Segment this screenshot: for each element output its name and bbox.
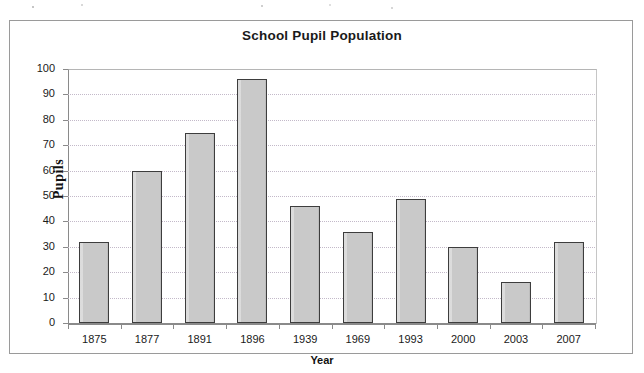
- x-tick-label-1875: 1875: [64, 333, 124, 345]
- bar-2003[interactable]: [501, 282, 531, 323]
- bar-1969[interactable]: [343, 232, 373, 323]
- bar-1877[interactable]: [132, 171, 162, 323]
- y-tick-label: 100: [15, 62, 55, 74]
- x-tick-mark: [332, 323, 333, 329]
- y-tick-label: 60: [15, 164, 55, 176]
- bar-slot: [490, 69, 543, 323]
- x-tick-mark: [68, 323, 69, 329]
- x-tick-mark: [384, 323, 385, 329]
- x-tick-mark: [173, 323, 174, 329]
- bar-1875[interactable]: [79, 242, 109, 323]
- bar-1896[interactable]: [237, 79, 267, 323]
- x-tick-mark: [542, 323, 543, 329]
- x-tick-mark: [437, 323, 438, 329]
- bar-slot: [173, 69, 226, 323]
- bar-slot: [279, 69, 332, 323]
- bar-2007[interactable]: [554, 242, 584, 323]
- x-tick-mark: [279, 323, 280, 329]
- x-tick-label-2000: 2000: [433, 333, 493, 345]
- bar-slot: [384, 69, 437, 323]
- y-tick-label: 10: [15, 291, 55, 303]
- y-tick-label: 80: [15, 113, 55, 125]
- x-tick-mark: [121, 323, 122, 329]
- y-tick-label: 0: [15, 316, 55, 328]
- y-tick-label: 70: [15, 138, 55, 150]
- x-tick-label-1969: 1969: [328, 333, 388, 345]
- y-tick-label: 90: [15, 87, 55, 99]
- x-tick-label-2007: 2007: [539, 333, 599, 345]
- x-tick-label-2003: 2003: [486, 333, 546, 345]
- bar-2000[interactable]: [448, 247, 478, 323]
- x-tick-label-1993: 1993: [381, 333, 441, 345]
- bar-1993[interactable]: [396, 199, 426, 323]
- bar-slot: [542, 69, 595, 323]
- x-tick-label-1891: 1891: [170, 333, 230, 345]
- bar-1891[interactable]: [185, 133, 215, 324]
- x-tick-mark: [226, 323, 227, 329]
- chart-figure-frame: School Pupil Population Pupils 100908070…: [9, 20, 633, 354]
- bar-slot: [332, 69, 385, 323]
- x-axis-title: Year: [10, 354, 634, 366]
- bars-group: [68, 69, 595, 323]
- scan-artifact-speckle: [0, 0, 644, 18]
- y-tick-label: 20: [15, 265, 55, 277]
- bar-slot: [121, 69, 174, 323]
- x-tick-mark: [490, 323, 491, 329]
- x-tick-label-1896: 1896: [222, 333, 282, 345]
- y-tick-label: 40: [15, 214, 55, 226]
- bar-slot: [226, 69, 279, 323]
- chart-title: School Pupil Population: [10, 28, 634, 43]
- x-tick-label-1939: 1939: [275, 333, 335, 345]
- bar-1939[interactable]: [290, 206, 320, 323]
- x-tick-label-1877: 1877: [117, 333, 177, 345]
- bar-slot: [68, 69, 121, 323]
- y-tick-label: 50: [15, 189, 55, 201]
- x-tick-mark: [595, 323, 596, 329]
- bar-slot: [437, 69, 490, 323]
- y-tick-label: 30: [15, 240, 55, 252]
